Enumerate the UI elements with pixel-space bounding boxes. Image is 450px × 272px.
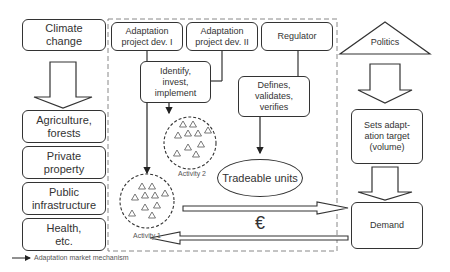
activity-1-label: Activity 1	[133, 232, 161, 239]
legend-label: Adaptation market mechanism	[34, 254, 129, 261]
activity-2-circle	[164, 117, 216, 169]
sector-public-infrastructure-box: Public infrastructure	[22, 182, 106, 215]
activity-2-label: Activity 2	[178, 170, 206, 177]
identify-invest-implement-box: Identify, invest, implement	[140, 61, 211, 103]
target-down-arrow	[358, 167, 412, 200]
defines-validates-verifies-box: Defines, validates, verifies	[238, 76, 310, 117]
politics-label: Politics	[355, 37, 415, 47]
adaptation-target-box: Sets adapt- ation target (volume)	[351, 109, 423, 164]
project-dev-2-box: Adaptation project dev. II	[186, 22, 258, 51]
demand-box: Demand	[351, 202, 423, 249]
sector-private-property-box: Private property	[22, 146, 106, 179]
euro-symbol: €	[250, 213, 270, 234]
sector-agriculture-box: Agriculture, forests	[22, 110, 106, 143]
activity-1-circle	[120, 174, 174, 228]
climate-change-box: Climate change	[22, 19, 106, 51]
tradeable-units-ellipse: Tradeable units	[217, 159, 303, 197]
climate-down-arrow	[34, 62, 92, 108]
politics-down-arrow	[358, 64, 412, 103]
money-flow-arrow	[150, 232, 348, 244]
regulator-box: Regulator	[261, 22, 333, 51]
project-dev-1-box: Adaptation project dev. I	[111, 22, 183, 51]
sector-health-box: Health, etc.	[22, 218, 106, 251]
